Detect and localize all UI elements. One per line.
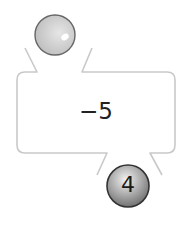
output-ball-label: 4 (106, 168, 150, 202)
input-ball (35, 15, 75, 55)
operation-label: −5 (17, 96, 175, 126)
